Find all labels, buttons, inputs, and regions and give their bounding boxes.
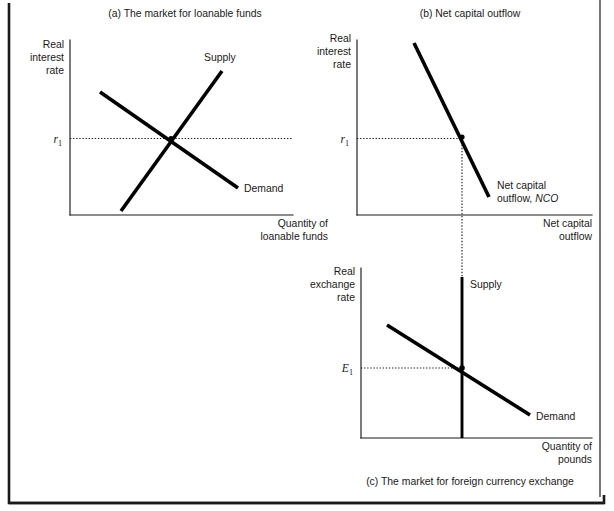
- panel-b-r1-label: r1: [340, 133, 349, 148]
- panel-a-title: (a) The market for loanable funds: [108, 8, 261, 19]
- panel-c-supply-label: Supply: [470, 279, 503, 290]
- panel-c-y-axis-label-line1: Real: [334, 266, 355, 277]
- panel-a-equilibrium-point: [168, 136, 173, 141]
- panel-b-y-axis-label: Real interest rate: [317, 33, 351, 70]
- panel-a-y-axis-label-line3: rate: [46, 65, 64, 76]
- panel-a-x-axis-label: Quantity of loanable funds: [260, 218, 328, 242]
- panel-c-x-axis-label-line2: pounds: [558, 454, 592, 465]
- panel-a-x-axis-label-line2: loanable funds: [260, 231, 328, 242]
- panel-c-y-axis-label-line2: exchange: [310, 279, 355, 290]
- panel-a-r1-label: r1: [53, 133, 62, 148]
- panel-b-axes: [357, 40, 592, 215]
- panel-c-x-axis-label-line1: Quantity of: [542, 441, 592, 452]
- panel-b-x-axis-label-line2: outflow: [559, 231, 592, 242]
- panel-a-y-axis-label: Real interest rate: [30, 39, 64, 76]
- panel-b-nco-label-plain: outflow,: [497, 193, 535, 204]
- panel-b-nco-label-line1: Net capital: [497, 180, 546, 191]
- panel-c-e1-label: E1: [341, 362, 353, 377]
- panel-b-nco-label-line2: outflow, NCO: [497, 193, 558, 204]
- panel-b-nco-curve-label: Net capital outflow, NCO: [497, 180, 558, 204]
- panel-c-y-axis-label-line3: rate: [337, 292, 355, 303]
- panel-c-y-axis-label: Real exchange rate: [310, 266, 355, 303]
- panel-a-demand-label: Demand: [244, 183, 283, 194]
- panel-c-equilibrium-point: [459, 365, 465, 371]
- panel-b-r1-subscript: 1: [345, 139, 349, 148]
- panel-b-x-axis-label: Net capital outflow: [543, 218, 593, 242]
- panel-b-nco-curve: [414, 43, 489, 197]
- panel-a-x-axis-label-line1: Quantity of: [278, 218, 328, 229]
- panel-c-demand-label: Demand: [536, 411, 575, 422]
- panel-a-y-axis-label-line2: interest: [30, 52, 64, 63]
- panel-b-equilibrium-point: [459, 134, 464, 139]
- panel-b-y-axis-label-line3: rate: [333, 59, 351, 70]
- panel-b-title: (b) Net capital outflow: [420, 8, 521, 19]
- panel-a-r1-subscript: 1: [58, 139, 62, 148]
- panel-a-supply-label: Supply: [204, 52, 237, 63]
- panel-b-y-axis-label-line1: Real: [330, 33, 351, 44]
- panel-a-y-axis-label-line1: Real: [43, 39, 64, 50]
- panel-c-title: (c) The market for foreign currency exch…: [366, 476, 574, 487]
- panel-b-nco-label-italic: NCO: [535, 193, 558, 204]
- figure-container: (a) The market for loanable funds Real i…: [0, 0, 614, 511]
- panel-c-demand-curve: [387, 325, 530, 415]
- panel-b-y-axis-label-line2: interest: [317, 46, 351, 57]
- figure-border: [9, 0, 604, 503]
- panel-a: (a) The market for loanable funds Real i…: [30, 8, 328, 242]
- panel-c-e1-subscript: 1: [349, 368, 353, 377]
- panel-c-e1-symbol: E: [341, 362, 349, 375]
- panel-c-x-axis-label: Quantity of pounds: [542, 441, 592, 465]
- panel-b-x-axis-label-line1: Net capital: [543, 218, 592, 229]
- panel-c: Real exchange rate Quantity of pounds Su…: [310, 266, 592, 487]
- panel-b: (b) Net capital outflow Real interest ra…: [317, 8, 593, 277]
- three-panel-economics-figure: (a) The market for loanable funds Real i…: [0, 0, 614, 511]
